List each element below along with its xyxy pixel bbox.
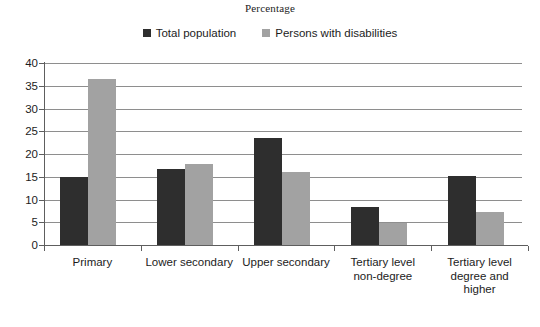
chart-title: Percentage xyxy=(0,2,540,14)
y-axis-tick-label: 35 xyxy=(12,80,38,92)
x-axis-category-label-line: higher xyxy=(431,283,528,297)
x-axis-category-label-line: degree and xyxy=(431,270,528,284)
y-axis-tick-label: 5 xyxy=(12,216,38,228)
bars-layer xyxy=(44,63,528,245)
x-axis-category-label: Tertiary leveldegree andhigher xyxy=(431,256,528,297)
y-axis-tick-label: 25 xyxy=(12,125,38,137)
y-axis-tick-label: 20 xyxy=(12,148,38,160)
legend-swatch-total-population xyxy=(143,29,151,37)
x-axis-tick xyxy=(528,246,529,251)
x-axis-tick xyxy=(44,246,45,251)
y-axis-tick-label: 30 xyxy=(12,103,38,115)
x-axis-tick xyxy=(141,246,142,251)
bar xyxy=(185,164,213,245)
x-axis-line xyxy=(44,245,528,246)
legend-label-persons-with-disabilities: Persons with disabilities xyxy=(275,27,397,39)
bar xyxy=(351,207,379,245)
x-axis-category-label-line: Tertiary level xyxy=(334,256,431,270)
x-axis-category-label-line: Tertiary level xyxy=(431,256,528,270)
bar xyxy=(88,79,116,245)
x-axis-tick xyxy=(238,246,239,251)
y-axis-tick-label: 15 xyxy=(12,171,38,183)
bar xyxy=(60,177,88,245)
bar xyxy=(448,176,476,245)
y-axis-tick-label: 0 xyxy=(12,239,38,251)
x-axis-category-label-line: Upper secondary xyxy=(238,256,335,270)
bar xyxy=(254,138,282,245)
legend-label-total-population: Total population xyxy=(156,27,237,39)
x-axis-category-label: Upper secondary xyxy=(238,256,335,270)
bar xyxy=(282,172,310,245)
y-axis-tick-label: 10 xyxy=(12,194,38,206)
x-axis-tick xyxy=(431,246,432,251)
x-axis-category-label: Primary xyxy=(44,256,141,270)
bar xyxy=(476,212,504,245)
chart-legend: Total population Persons with disabiliti… xyxy=(0,27,540,39)
bar-chart: Percentage Total population Persons with… xyxy=(0,0,540,327)
legend-item-persons-with-disabilities: Persons with disabilities xyxy=(262,27,397,39)
x-axis-category-labels: PrimaryLower secondaryUpper secondaryTer… xyxy=(44,256,528,326)
bar xyxy=(379,223,407,245)
x-axis-category-label-line: non-degree xyxy=(334,270,431,284)
x-axis-category-label-line: Primary xyxy=(44,256,141,270)
legend-item-total-population: Total population xyxy=(143,27,237,39)
bar xyxy=(157,169,185,245)
y-axis-tick-label: 40 xyxy=(12,57,38,69)
x-axis-category-label: Tertiary levelnon-degree xyxy=(334,256,431,283)
x-axis-category-label: Lower secondary xyxy=(141,256,238,270)
x-axis-tick xyxy=(334,246,335,251)
y-axis-labels: 0510152025303540 xyxy=(8,0,38,327)
legend-swatch-persons-with-disabilities xyxy=(262,29,270,37)
x-axis-category-label-line: Lower secondary xyxy=(141,256,238,270)
